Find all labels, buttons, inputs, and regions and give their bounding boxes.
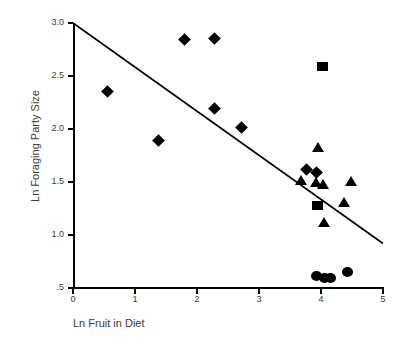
scatter-plot: .51.01.52.02.53.0012345 Ln Foraging Part… xyxy=(0,0,402,343)
x-axis-label: Ln Fruit in Diet xyxy=(73,317,273,329)
trend-line xyxy=(0,0,402,343)
y-axis-label: Ln Foraging Party Size xyxy=(29,26,41,266)
